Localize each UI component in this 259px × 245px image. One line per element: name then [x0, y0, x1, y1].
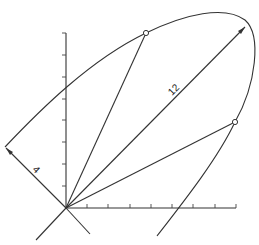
- dimension-line-12: [66, 27, 245, 208]
- dimension-line-4: [6, 148, 66, 208]
- outer-curve: [5, 12, 255, 236]
- extension-line-left: [36, 208, 66, 240]
- radial-line-upper: [66, 33, 146, 208]
- point-marker-upper: [143, 30, 148, 35]
- diagram-canvas: 12 4: [0, 0, 259, 245]
- label-12: 12: [166, 81, 182, 97]
- x-axis: [66, 204, 236, 208]
- extension-line-right: [66, 208, 90, 234]
- y-axis: [62, 33, 66, 208]
- point-marker-lower: [232, 119, 237, 124]
